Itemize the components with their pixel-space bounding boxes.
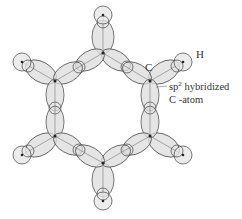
benzene-sigma-framework: H C sp2 hybridized C -atom [0, 0, 242, 219]
ch-bond-lobes [21, 20, 183, 197]
hydrogen-label: H [196, 48, 204, 60]
hybrid-label-line1: sp2 hybridized [169, 80, 230, 92]
cc-bond-lobes [46, 44, 159, 172]
carbon-label: C [145, 61, 152, 73]
hybrid-label-line2: C -atom [169, 94, 203, 105]
